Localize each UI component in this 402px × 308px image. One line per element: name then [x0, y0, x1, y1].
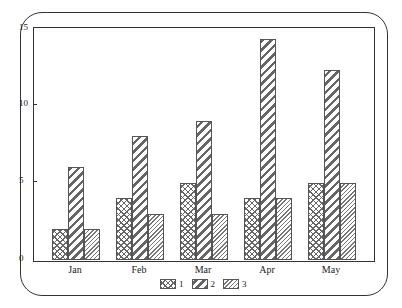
y-tick-label: 5 [19, 175, 31, 185]
x-tick-label: Jan [50, 264, 100, 275]
legend-label: 1 [179, 279, 184, 289]
legend-item-2: 2 [192, 279, 216, 289]
x-tick-label: Mar [178, 264, 228, 275]
x-tick-label: Apr [242, 264, 292, 275]
legend-item-3: 3 [223, 279, 247, 289]
fine-diagonal-swatch-icon [223, 279, 239, 289]
bar-feb-series-3 [148, 214, 164, 260]
y-tick-mark [33, 181, 37, 182]
legend-label: 3 [242, 279, 247, 289]
x-tick-label: May [306, 264, 356, 275]
bar-jan-series-1 [52, 229, 68, 260]
bar-feb-series-1 [116, 198, 132, 260]
y-tick-label: 0 [19, 253, 31, 263]
bar-jan-series-2 [68, 167, 84, 260]
bar-jan-series-3 [84, 229, 100, 260]
legend: 1 2 3 [160, 279, 247, 289]
bar-may-series-1 [308, 183, 324, 260]
bar-feb-series-2 [132, 136, 148, 260]
legend-label: 2 [211, 279, 216, 289]
bar-apr-series-1 [244, 198, 260, 260]
bar-mar-series-3 [212, 214, 228, 260]
bar-mar-series-2 [196, 121, 212, 260]
x-tick-label: Feb [114, 264, 164, 275]
bar-apr-series-3 [276, 198, 292, 260]
legend-item-1: 1 [160, 279, 184, 289]
crosshatch-swatch-icon [160, 279, 176, 289]
y-tick-label: 15 [19, 22, 31, 32]
wide-diagonal-swatch-icon [192, 279, 208, 289]
bar-may-series-3 [340, 183, 356, 260]
y-tick-mark [33, 104, 37, 105]
y-tick-label: 10 [19, 98, 31, 108]
bar-may-series-2 [324, 70, 340, 260]
bar-apr-series-2 [260, 39, 276, 260]
bar-mar-series-1 [180, 183, 196, 260]
